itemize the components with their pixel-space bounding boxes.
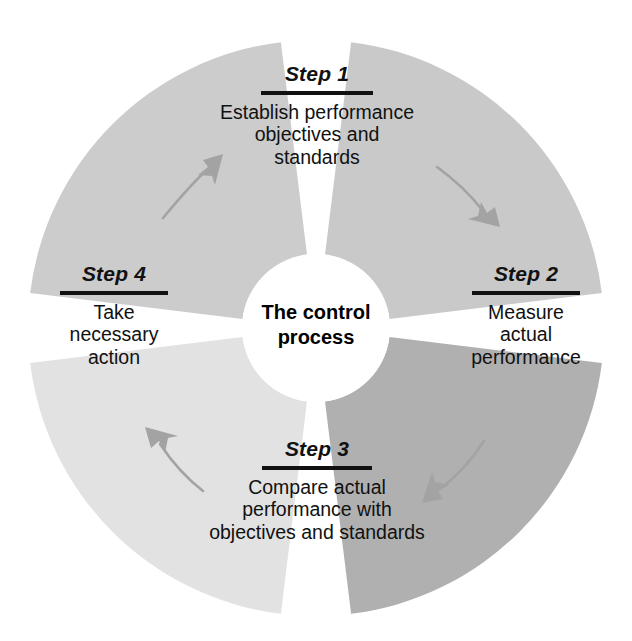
step-4-body: Take necessary action <box>18 301 210 369</box>
step-3-title: Step 3 <box>285 437 349 464</box>
control-process-diagram: Step 1 Establish performance objectives … <box>0 0 632 641</box>
step-3-body: Compare actual performance with objectiv… <box>150 476 484 544</box>
step-4-underline <box>60 291 168 295</box>
label-step-2: Step 2 Measure actual performance <box>430 262 622 369</box>
step-2-underline <box>472 291 580 295</box>
step-4-title: Step 4 <box>82 262 146 289</box>
step-1-underline <box>261 91 373 95</box>
label-step-3: Step 3 Compare actual performance with o… <box>150 437 484 544</box>
step-1-title: Step 1 <box>285 62 349 89</box>
hub-label: The control process <box>236 300 396 350</box>
label-step-1: Step 1 Establish performance objectives … <box>158 62 476 169</box>
step-2-title: Step 2 <box>494 262 558 289</box>
step-2-body: Measure actual performance <box>430 301 622 369</box>
label-step-4: Step 4 Take necessary action <box>18 262 210 369</box>
step-1-body: Establish performance objectives and sta… <box>158 101 476 169</box>
step-3-underline <box>262 466 372 470</box>
